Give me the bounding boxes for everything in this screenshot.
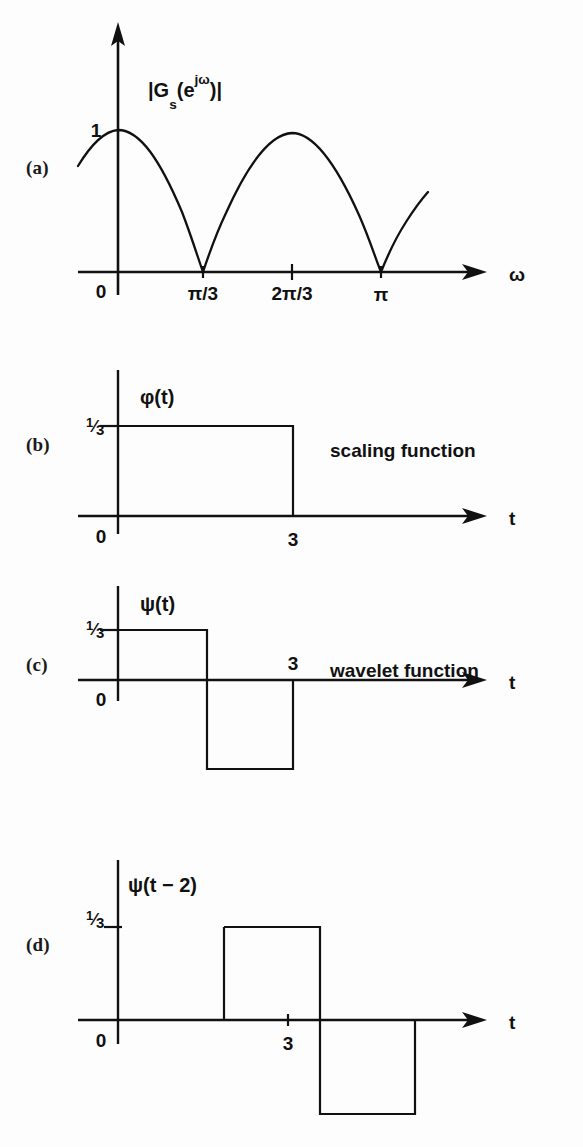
panel-b-xtick-label-0: 3 bbox=[288, 529, 299, 550]
panel-c-x-axis-name: t bbox=[509, 672, 516, 693]
panel-b-x-axis-name: t bbox=[509, 508, 516, 529]
panel-b-pulse-outline bbox=[118, 426, 293, 516]
panel-a-plot: |Gs(ejω)| 1 0 π/3 2π/3 π ω bbox=[0, 0, 583, 330]
panel-a-magnitude-curve bbox=[78, 130, 428, 272]
panel-d-xtick-label-0: 3 bbox=[283, 1033, 294, 1054]
panel-d-plot: ψ(t − 2) 0 3 t bbox=[0, 840, 583, 1147]
panel-d-x-axis-name: t bbox=[509, 1012, 516, 1033]
panel-a-curve-label: |Gs(ejω)| bbox=[148, 72, 222, 112]
panel-a-xtick-label-2: π bbox=[374, 284, 389, 305]
panel-d: (d) 1⁄3 ψ(t − 2) 0 3 t bbox=[0, 840, 583, 1147]
panel-c-curve-label: ψ(t) bbox=[140, 593, 175, 615]
panel-c-wavelet-outline bbox=[118, 630, 293, 769]
panel-a-x-axis-name: ω bbox=[509, 264, 525, 285]
panel-b-plot: φ(t) 0 3 t bbox=[0, 362, 583, 562]
panel-b: (b) 1⁄3 scaling function φ(t) 0 3 t bbox=[0, 362, 583, 562]
panel-d-origin-label: 0 bbox=[96, 1030, 107, 1051]
panel-c-xtick-label-0: 3 bbox=[288, 653, 299, 674]
panel-a-origin-label: 0 bbox=[96, 281, 107, 302]
panel-c: (c) 1⁄3 wavelet function ψ(t) 0 3 t bbox=[0, 578, 583, 810]
panel-b-curve-label: φ(t) bbox=[140, 386, 174, 408]
panel-a-ytick-label: 1 bbox=[91, 120, 102, 141]
panel-b-origin-label: 0 bbox=[96, 526, 107, 547]
panel-c-plot: ψ(t) 0 3 t bbox=[0, 578, 583, 810]
panel-a-xtick-label-0: π/3 bbox=[188, 283, 218, 304]
panel-a-xtick-label-1: 2π/3 bbox=[272, 283, 313, 304]
panel-a: (a) |Gs(ejω)| 1 0 π/3 2π/3 π ω bbox=[0, 0, 583, 330]
panel-d-curve-label: ψ(t − 2) bbox=[128, 874, 197, 896]
figure-page: (a) |Gs(ejω)| 1 0 π/3 2π/3 π ω (b) bbox=[0, 0, 583, 1147]
panel-c-origin-label: 0 bbox=[96, 689, 107, 710]
